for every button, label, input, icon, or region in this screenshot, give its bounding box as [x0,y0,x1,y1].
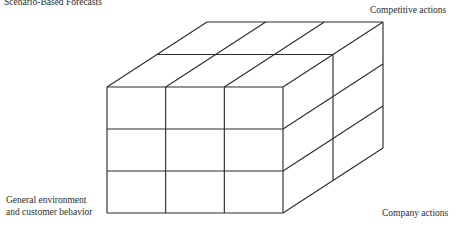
axis-label-general-environment-line-1: General environment [6,194,126,206]
axis-label-general-environment: General environment and customer behavio… [6,194,126,218]
axis-label-company-actions: Company actions [382,208,448,219]
front-face-grid [107,87,283,213]
axis-label-general-environment-line-2: and customer behavior [6,206,126,218]
figure-canvas: Scenario-Based Forecasts [0,0,460,230]
right-face-grid [283,22,383,213]
top-face-grid [107,22,383,87]
axis-label-competitive-actions: Competitive actions [370,5,446,16]
